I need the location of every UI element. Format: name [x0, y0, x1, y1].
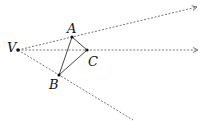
diagram-canvas: V A B C	[0, 0, 203, 121]
triangle-abc	[59, 37, 87, 75]
point-v	[16, 48, 20, 52]
label-a: A	[66, 21, 76, 36]
ray-va	[18, 7, 197, 50]
label-c: C	[88, 54, 98, 69]
label-b: B	[48, 77, 59, 92]
label-v: V	[7, 40, 18, 55]
point-c	[85, 48, 88, 51]
